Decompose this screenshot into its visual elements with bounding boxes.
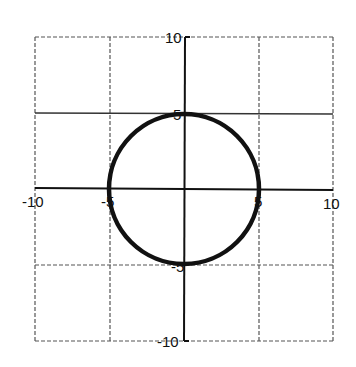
x-tick-neg5: -5 (101, 193, 114, 210)
circle-graph: -10 -5 5 10 10 5 -5 -10 (0, 0, 356, 367)
x-tick-pos10: 10 (323, 195, 340, 212)
x-tick-neg10: -10 (22, 193, 44, 210)
y-axis (184, 37, 185, 341)
y-tick-neg10: -10 (157, 333, 179, 350)
y-tick-pos10: 10 (165, 29, 182, 46)
x-tick-pos5: 5 (254, 193, 262, 210)
y-tick-neg5: -5 (171, 258, 184, 275)
y-tick-pos5: 5 (173, 106, 181, 123)
axes (35, 37, 333, 341)
